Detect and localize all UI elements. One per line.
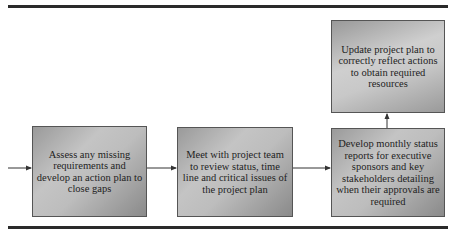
node-assess: Assess any missing requirements and deve… [32, 126, 147, 217]
node-update-label: Update project plan to correctly reflect… [335, 44, 441, 90]
node-meet-label: Meet with project team to review status,… [181, 149, 289, 195]
node-report-label: Develop monthly status reports for execu… [335, 138, 441, 207]
node-report: Develop monthly status reports for execu… [331, 128, 445, 217]
node-meet: Meet with project team to review status,… [177, 127, 293, 217]
node-assess-label: Assess any missing requirements and deve… [36, 149, 143, 195]
node-update: Update project plan to correctly reflect… [331, 20, 445, 113]
